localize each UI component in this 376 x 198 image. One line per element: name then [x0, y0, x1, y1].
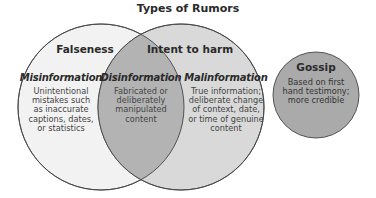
region-title-malinformation: Malinformation — [182, 72, 270, 83]
gossip-desc: Based on first hand testimony; more cred… — [281, 78, 351, 106]
set-label-intent-to-harm: Intent to harm — [140, 44, 240, 56]
region-title-disinformation: Disinformation — [98, 72, 184, 83]
region-title-misinformation: Misinformation — [18, 72, 104, 83]
region-desc-malinformation: True information; deliberate change of c… — [188, 87, 264, 133]
diagram-title: Types of Rumors — [118, 3, 258, 15]
set-label-falseness: Falseness — [45, 44, 125, 56]
region-desc-misinformation: Unintentional mistakes such as inaccurat… — [26, 87, 96, 133]
gossip-title: Gossip — [286, 62, 346, 74]
region-desc-disinformation: Fabricated or deliberately manipulated c… — [108, 87, 174, 124]
